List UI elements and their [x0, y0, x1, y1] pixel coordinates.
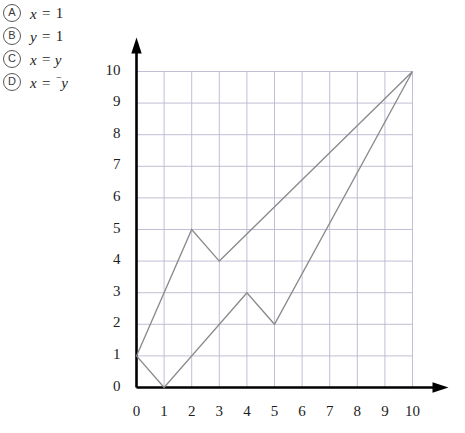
x-axis-tick-label: 1 — [153, 403, 175, 420]
y-axis-arrowhead — [131, 38, 141, 54]
y-axis-tick-label: 10 — [95, 62, 121, 79]
y-axis-tick-label: 2 — [95, 314, 121, 331]
y-axis-tick-label: 6 — [95, 188, 121, 205]
x-axis-tick-label: 0 — [126, 403, 148, 420]
x-axis-tick-label: 9 — [374, 403, 396, 420]
x-axis-tick-label: 7 — [319, 403, 341, 420]
y-axis-tick-label: 9 — [95, 93, 121, 110]
x-axis-tick-label: 3 — [208, 403, 230, 420]
coordinate-grid-figure — [0, 0, 465, 433]
x-axis-arrowhead — [433, 382, 449, 392]
y-axis-tick-label: 3 — [95, 283, 121, 300]
x-axis-tick-label: 6 — [291, 403, 313, 420]
x-axis-tick-label: 8 — [346, 403, 368, 420]
y-axis-tick-label: 8 — [95, 125, 121, 142]
y-axis-tick-label: 7 — [95, 156, 121, 173]
y-axis-tick-label: 0 — [95, 378, 121, 395]
gridlines — [137, 72, 413, 388]
x-axis-tick-label: 2 — [181, 403, 203, 420]
y-axis-tick-label: 5 — [95, 220, 121, 237]
y-axis-tick-label: 4 — [95, 251, 121, 268]
x-axis-tick-label: 10 — [402, 403, 424, 420]
x-axis-tick-label: 5 — [264, 403, 286, 420]
y-axis-tick-label: 1 — [95, 346, 121, 363]
axes — [131, 38, 448, 393]
x-axis-tick-label: 4 — [236, 403, 258, 420]
